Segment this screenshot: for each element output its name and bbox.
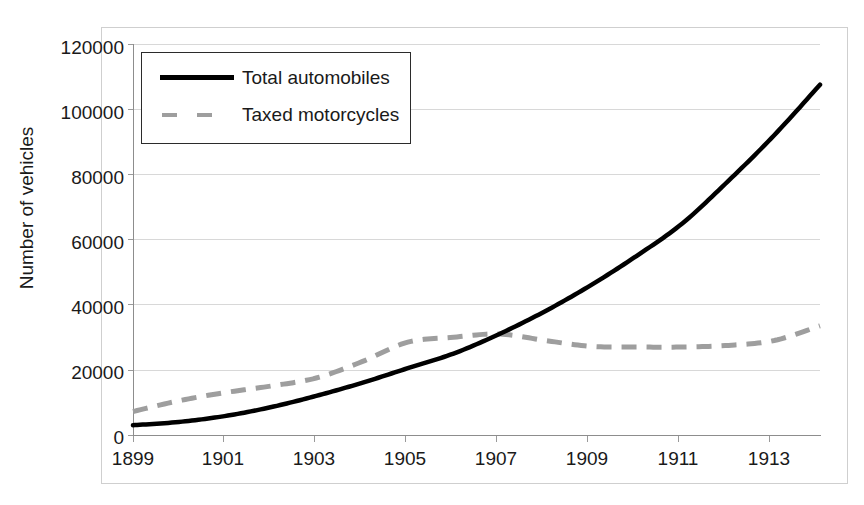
y-axis-line: [133, 44, 134, 436]
y-tick-mark: [128, 370, 133, 371]
x-tick-label-1905: 1905: [360, 449, 450, 468]
y-tick-mark: [128, 174, 133, 175]
x-tick-mark: [223, 436, 224, 442]
y-tick-label-text: 120000: [24, 38, 124, 57]
y-tick-mark: [128, 304, 133, 305]
y-tick-label-text: 0: [24, 428, 124, 447]
x-tick-mark: [133, 436, 134, 442]
x-tick-label-1911: 1911: [633, 449, 723, 468]
line-chart: 120000 100000 80000 60000 40000 20000 0 …: [0, 0, 864, 505]
gridline-40000: [133, 304, 820, 305]
x-tick-label-1907: 1907: [451, 449, 541, 468]
x-tick-mark: [314, 436, 315, 442]
x-tick-label-1909: 1909: [542, 449, 632, 468]
x-tick-mark: [496, 436, 497, 442]
x-tick-mark: [678, 436, 679, 442]
gridline-80000: [133, 174, 820, 175]
dashed-line-swatch-icon: [160, 107, 234, 121]
y-tick-label-text: 80000: [24, 168, 124, 187]
x-axis-line: [133, 435, 821, 436]
x-tick-mark: [587, 436, 588, 442]
legend-label-taxed-motorcycles: Taxed motorcycles: [242, 105, 399, 124]
legend-item-total-automobiles: Total automobiles: [142, 64, 410, 90]
y-axis-title: Number of vehicles: [17, 93, 37, 323]
x-tick-label-1903: 1903: [269, 449, 359, 468]
gridline-20000: [133, 370, 820, 371]
y-tick-label-text: 60000: [24, 233, 124, 252]
y-tick-label-text: 20000: [24, 363, 124, 382]
x-tick-label-1899: 1899: [88, 449, 178, 468]
gridline-120000: [133, 44, 820, 45]
solid-line-swatch-icon: [160, 70, 234, 84]
chart-legend: Total automobiles Taxed motorcycles: [141, 52, 411, 144]
y-tick-mark: [128, 239, 133, 240]
x-tick-label-1901: 1901: [178, 449, 268, 468]
legend-label-total-automobiles: Total automobiles: [242, 68, 390, 87]
gridline-60000: [133, 239, 820, 240]
x-tick-mark: [405, 436, 406, 442]
y-tick-label-text: 100000: [24, 103, 124, 122]
x-tick-mark: [769, 436, 770, 442]
y-tick-mark: [128, 44, 133, 45]
y-tick-label-text: 40000: [24, 298, 124, 317]
y-tick-mark: [128, 109, 133, 110]
x-tick-label-1913: 1913: [724, 449, 814, 468]
legend-item-taxed-motorcycles: Taxed motorcycles: [142, 101, 410, 127]
